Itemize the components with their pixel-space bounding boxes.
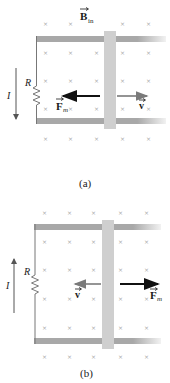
svg-text:×: × — [42, 324, 47, 331]
svg-text:×: × — [91, 353, 96, 360]
svg-text:×: × — [94, 135, 99, 142]
svg-text:×: × — [67, 324, 72, 331]
resistor-wire — [32, 224, 39, 344]
panel-b: × × × × × × × × × × × × × × × × × × × × … — [5, 209, 162, 380]
svg-text:×: × — [42, 238, 47, 245]
svg-text:F: F — [56, 100, 63, 112]
svg-text:×: × — [43, 20, 48, 27]
svg-text:×: × — [144, 209, 149, 216]
svg-text:×: × — [91, 324, 96, 331]
moving-bar — [104, 31, 116, 129]
moving-bar — [102, 220, 114, 349]
velocity-label: v — [139, 99, 146, 112]
svg-text:×: × — [67, 266, 72, 273]
svg-text:×: × — [43, 77, 48, 84]
top-rail — [34, 224, 161, 230]
rail-generator-diagram: B in × × × × × × × × × × × × × × × × × ×… — [0, 0, 170, 383]
current-label: I — [6, 90, 11, 101]
svg-text:×: × — [144, 324, 149, 331]
resistor-wire — [33, 36, 40, 124]
svg-text:×: × — [43, 135, 48, 142]
svg-text:×: × — [120, 135, 125, 142]
svg-text:×: × — [120, 77, 125, 84]
force-label: F m — [150, 288, 162, 304]
svg-text:×: × — [94, 105, 99, 112]
panel-a: B in × × × × × × × × × × × × × × × × × ×… — [6, 8, 166, 191]
resistor-label: R — [23, 266, 30, 277]
svg-text:×: × — [118, 295, 123, 302]
svg-text:×: × — [42, 353, 47, 360]
svg-text:×: × — [118, 209, 123, 216]
bottom-rail — [36, 118, 166, 124]
svg-text:×: × — [91, 266, 96, 273]
svg-text:×: × — [118, 324, 123, 331]
force-label: F m — [56, 98, 68, 115]
svg-text:×: × — [67, 295, 72, 302]
svg-text:×: × — [118, 266, 123, 273]
svg-text:×: × — [144, 238, 149, 245]
svg-text:×: × — [42, 295, 47, 302]
svg-text:×: × — [146, 135, 151, 142]
svg-text:×: × — [67, 353, 72, 360]
top-rail — [36, 36, 166, 42]
field-label: B in — [80, 8, 94, 26]
svg-text:m: m — [157, 295, 162, 303]
svg-text:×: × — [68, 105, 73, 112]
svg-text:×: × — [43, 49, 48, 56]
svg-text:×: × — [68, 135, 73, 142]
svg-text:m: m — [63, 106, 68, 114]
svg-text:×: × — [91, 209, 96, 216]
svg-text:×: × — [67, 209, 72, 216]
caption-a: (a) — [79, 177, 92, 190]
svg-text:×: × — [118, 238, 123, 245]
svg-text:×: × — [144, 353, 149, 360]
velocity-label: v — [75, 288, 82, 301]
svg-text:×: × — [144, 266, 149, 273]
svg-text:×: × — [120, 49, 125, 56]
svg-text:×: × — [68, 20, 73, 27]
resistor-label: R — [24, 77, 31, 88]
svg-text:×: × — [94, 49, 99, 56]
svg-text:×: × — [68, 77, 73, 84]
svg-text:×: × — [91, 295, 96, 302]
svg-text:×: × — [146, 77, 151, 84]
svg-text:×: × — [146, 20, 151, 27]
svg-text:×: × — [68, 49, 73, 56]
svg-text:×: × — [146, 105, 151, 112]
svg-text:×: × — [120, 20, 125, 27]
svg-text:F: F — [150, 289, 157, 301]
svg-text:×: × — [67, 238, 72, 245]
field-symbol-b: B — [80, 10, 88, 22]
field-subscript: in — [88, 17, 94, 25]
svg-text:×: × — [144, 295, 149, 302]
caption-b: (b) — [80, 367, 93, 380]
svg-text:×: × — [42, 266, 47, 273]
svg-text:×: × — [146, 49, 151, 56]
svg-text:×: × — [120, 105, 125, 112]
svg-text:×: × — [94, 77, 99, 84]
current-label: I — [5, 280, 10, 291]
bottom-rail — [34, 338, 161, 344]
svg-text:×: × — [42, 209, 47, 216]
svg-text:×: × — [91, 238, 96, 245]
svg-text:×: × — [118, 353, 123, 360]
svg-text:×: × — [43, 105, 48, 112]
